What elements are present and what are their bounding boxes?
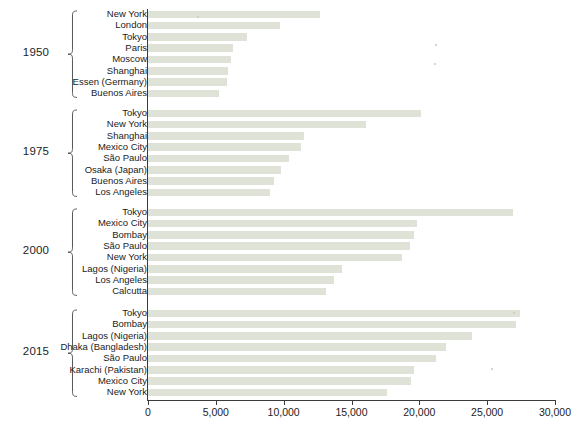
x-tick xyxy=(216,401,217,405)
city-label: São Paulo xyxy=(0,352,147,363)
bar xyxy=(148,254,402,262)
bar xyxy=(148,121,366,129)
city-label: Calcutta xyxy=(0,285,147,296)
chart-row: New York xyxy=(0,387,588,398)
x-tick-label: 15,000 xyxy=(322,406,382,418)
bar xyxy=(148,143,301,151)
city-label: Lagos (Nigeria) xyxy=(0,263,147,274)
city-label: Essen (Germany) xyxy=(0,76,147,87)
bar xyxy=(148,276,334,284)
scan-speck xyxy=(281,414,283,416)
bar xyxy=(148,189,270,197)
city-label: New York xyxy=(0,8,147,19)
bar xyxy=(148,231,414,239)
bar xyxy=(148,389,387,397)
city-label: São Paulo xyxy=(0,240,147,251)
city-label: Tokyo xyxy=(0,31,147,42)
bar xyxy=(148,265,342,273)
city-label: Buenos Aires xyxy=(0,87,147,98)
bar xyxy=(148,355,436,363)
bar xyxy=(148,132,304,140)
bar xyxy=(148,177,274,185)
year-group-2015: 2015TokyoBombayLagos (Nigeria)Dhaka (Ban… xyxy=(0,308,588,398)
bar xyxy=(148,343,446,351)
bar xyxy=(148,11,320,19)
city-label: São Paulo xyxy=(0,152,147,163)
scan-speck xyxy=(197,16,199,18)
city-label: Shanghai xyxy=(0,130,147,141)
city-label: Los Angeles xyxy=(0,274,147,285)
city-label: London xyxy=(0,19,147,30)
city-label: Dhaka (Bangladesh) xyxy=(0,341,147,352)
city-label: New York xyxy=(0,118,147,129)
bar xyxy=(148,366,414,374)
x-tick xyxy=(487,401,488,405)
city-label: Moscow xyxy=(0,53,147,64)
year-group-1975: 1975TokyoNew YorkShanghaiMexico CitySão … xyxy=(0,108,588,198)
chart-row: Buenos Aires xyxy=(0,88,588,99)
bar xyxy=(148,33,247,41)
bar xyxy=(148,242,410,250)
scan-speck xyxy=(435,44,437,46)
city-label: Mexico City xyxy=(0,375,147,386)
x-tick xyxy=(352,401,353,405)
city-label: Tokyo xyxy=(0,107,147,118)
x-tick xyxy=(555,401,556,405)
scan-speck xyxy=(434,63,436,65)
bar xyxy=(148,44,233,52)
bar xyxy=(148,332,472,340)
chart-row: Calcutta xyxy=(0,286,588,297)
x-tick-label: 30,000 xyxy=(525,406,585,418)
x-tick-label: 5,000 xyxy=(186,406,246,418)
x-tick-label: 10,000 xyxy=(254,406,314,418)
bar xyxy=(148,377,411,385)
bar xyxy=(148,78,227,86)
city-label: Buenos Aires xyxy=(0,175,147,186)
bar xyxy=(148,209,513,217)
city-label: Mexico City xyxy=(0,141,147,152)
population-bar-chart: 1950New YorkLondonTokyoParisMoscowShangh… xyxy=(0,0,588,424)
x-tick-label: 0 xyxy=(118,406,178,418)
bar xyxy=(148,321,516,329)
city-label: Osaka (Japan) xyxy=(0,164,147,175)
city-label: Tokyo xyxy=(0,307,147,318)
city-label: New York xyxy=(0,251,147,262)
bar xyxy=(148,220,417,228)
bar xyxy=(148,166,281,174)
city-label: Bombay xyxy=(0,318,147,329)
bar xyxy=(148,155,289,163)
chart-row: Los Angeles xyxy=(0,187,588,198)
city-label: Tokyo xyxy=(0,206,147,217)
city-label: Karachi (Pakistan) xyxy=(0,364,147,375)
bar xyxy=(148,67,228,75)
x-tick xyxy=(419,401,420,405)
scan-speck xyxy=(513,312,515,314)
city-label: Paris xyxy=(0,42,147,53)
x-tick xyxy=(148,401,149,405)
city-label: Los Angeles xyxy=(0,186,147,197)
city-label: Shanghai xyxy=(0,65,147,76)
bar xyxy=(148,110,421,118)
bar xyxy=(148,22,280,30)
x-tick-label: 25,000 xyxy=(457,406,517,418)
city-label: New York xyxy=(0,386,147,397)
city-label: Lagos (Nigeria) xyxy=(0,330,147,341)
bar xyxy=(148,56,231,64)
scan-speck xyxy=(491,368,493,370)
year-group-2000: 2000TokyoMexico CityBombaySão PauloNew Y… xyxy=(0,207,588,297)
city-label: Mexico City xyxy=(0,217,147,228)
bar xyxy=(148,288,326,296)
bar xyxy=(148,90,219,98)
bar xyxy=(148,310,520,318)
x-tick-label: 20,000 xyxy=(389,406,449,418)
x-tick xyxy=(284,401,285,405)
year-group-1950: 1950New YorkLondonTokyoParisMoscowShangh… xyxy=(0,9,588,99)
y-axis-line xyxy=(147,9,148,401)
city-label: Bombay xyxy=(0,229,147,240)
